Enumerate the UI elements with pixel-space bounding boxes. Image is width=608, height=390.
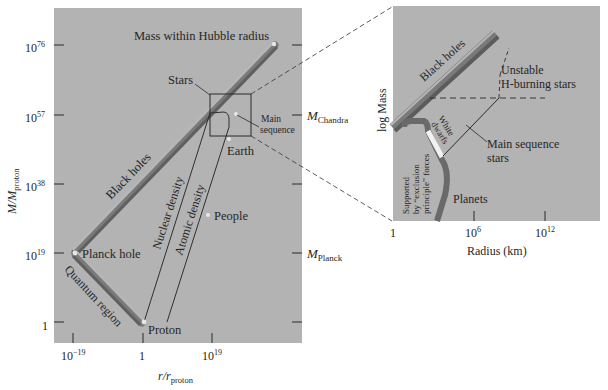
label-planets: Planets [453,192,488,206]
label-supported-2: by “exclusion [411,164,421,214]
label-supported-1: Supported [401,177,411,214]
left-panel: Mass within Hubble radius Stars Main seq… [5,8,348,385]
planck-hole-point [73,251,78,256]
label-supported-3: principle” forces [421,153,431,214]
label-unstable-1: Unstable [501,63,544,77]
y-tick-57: 1057 [25,110,45,125]
label-hubble: Mass within Hubble radius [134,29,269,43]
hubble-point [272,42,276,46]
left-y-axis-label: M/Mproton [5,168,21,215]
label-unstable-2: H-burning stars [501,77,576,91]
label-main-sequence-1: Main [261,114,281,124]
m-chandra-label: MChandra [306,108,348,125]
y-tick-1: 1 [42,319,48,333]
y-tick-76: 1076 [25,40,45,55]
people-point [206,213,210,217]
right-x-tick-1: 1 [390,226,396,240]
right-y-axis-label: log Mass [375,88,389,132]
right-x-tick-6: 106 [465,225,481,240]
right-x-axis-label: Radius (km) [467,244,527,258]
y-tick-38: 1038 [25,179,45,194]
right-panel: Black holes Unstable H-burning stars Whi… [375,6,600,258]
proton-point [142,320,147,325]
label-proton: Proton [148,323,182,337]
label-main-seq-1: Main sequence [487,137,559,151]
label-planck-hole: Planck hole [82,247,141,261]
mass-radius-diagram: Mass within Hubble radius Stars Main seq… [0,0,608,390]
x-tick-minus19: 10−19 [61,348,86,363]
x-tick-19: 1019 [202,348,222,363]
y-tick-19: 1019 [25,248,45,263]
label-people: People [214,209,248,223]
label-main-sequence-2: sequence [260,125,295,135]
x-tick-1: 1 [139,349,145,363]
label-earth: Earth [227,144,255,158]
label-stars: Stars [168,73,193,87]
earth-point [227,137,231,141]
label-main-seq-2: stars [487,151,509,165]
right-x-tick-12: 1012 [535,225,555,240]
m-planck-label: MPlanck [306,246,343,263]
left-x-axis-label: r/rproton [158,369,194,385]
